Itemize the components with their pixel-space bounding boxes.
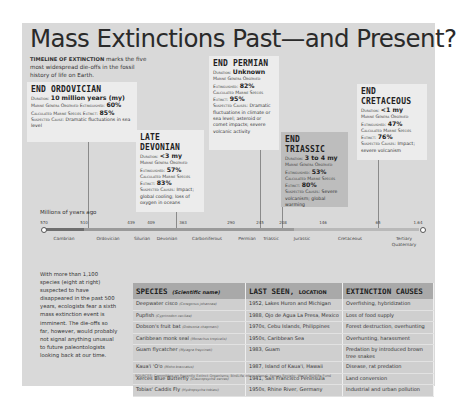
event-genera: 57% <box>167 166 182 173</box>
timeline-bar-light <box>294 228 419 231</box>
table-row: Kaua'i 'O'o (Moho braccatus) 1987, Islan… <box>133 362 434 374</box>
tick-label: 245 <box>256 220 264 225</box>
stem-ordovician <box>88 142 89 228</box>
event-genera: 53% <box>312 168 327 175</box>
event-duration: 10 million years (my) <box>51 94 125 101</box>
stem-cretaceous <box>378 160 379 228</box>
event-species: 80% <box>302 181 317 188</box>
table-row: Deepwater cisco (Coregonus johannae) 195… <box>133 299 434 310</box>
tick-label: 1.64 <box>414 220 423 225</box>
event-card-end-cretaceous: END CRETACEOUS Duration: <1 my Marine Ge… <box>357 84 427 160</box>
tick-label: 409 <box>147 220 155 225</box>
period-label: Ordovician <box>96 236 119 241</box>
period-label: Carboniferous <box>192 236 222 241</box>
period-label: Triassic <box>263 236 279 241</box>
event-duration: <3 my <box>160 152 182 159</box>
event-genera: 47% <box>388 120 403 127</box>
tick-label: 208 <box>279 220 287 225</box>
intro-text: TIMELINE OF EXTINCTION marks the five mo… <box>30 55 150 79</box>
table-row: Pupfish (Cyprinodon ceciliae) 1988, Ojo … <box>133 310 434 322</box>
event-duration: Unknown <box>233 68 265 75</box>
tick-label: 363 <box>179 220 187 225</box>
event-card-end-triassic: END TRIASSIC Duration: 3 to 4 my Marine … <box>281 132 348 207</box>
header-last-seen: LAST SEEN, LOCATION <box>246 283 343 299</box>
event-species: 85% <box>100 109 115 116</box>
timeline-end-dot <box>420 227 426 233</box>
period-label: Cretaceous <box>338 236 362 241</box>
period-label: Devonian <box>157 236 177 241</box>
period-label: Cambrian <box>54 236 75 241</box>
page-title: Mass Extinctions Past—and Present? <box>30 24 456 53</box>
tick-label: 510 <box>80 220 88 225</box>
event-card-end-ordovician: END ORDOVICIAN Duration: 10 million year… <box>27 82 137 142</box>
event-name: LATE DEVONIAN <box>140 133 200 153</box>
event-card-late-devonian: LATE DEVONIAN Duration: <3 my Marine Gen… <box>136 130 204 212</box>
event-duration: <1 my <box>381 106 403 113</box>
event-name: END TRIASSIC <box>285 135 344 155</box>
stem-permian <box>260 150 261 228</box>
intro-lead: TIMELINE OF EXTINCTION <box>30 56 104 62</box>
event-card-end-permian: END PERMIAN Duration: Unknown Marine Gen… <box>209 56 279 150</box>
timeline-bar-mid <box>84 228 294 231</box>
event-duration: 3 to 4 my <box>305 154 338 161</box>
period-label: Jurassic <box>294 236 310 241</box>
event-species: 76% <box>378 133 393 140</box>
table-row: Guam flycatcher (Myiagra freycineti) 198… <box>133 345 434 362</box>
tick-label: 439 <box>127 220 135 225</box>
tick-label: 290 <box>227 220 235 225</box>
timeline-axis-label: Millions of years ago <box>40 209 96 215</box>
table-row: Dobson's fruit bat (Dobsonia chapmani) 1… <box>133 322 434 334</box>
recent-extinctions-table: SPECIES (Scientific name) LAST SEEN, LOC… <box>133 283 434 397</box>
table-row: Caribbean monk seal (Monachus tropicalis… <box>133 333 434 345</box>
event-genera: 82% <box>240 82 255 89</box>
period-label: Permian <box>238 236 256 241</box>
sources-credit: SOURCES: Committee on Recently Extinct O… <box>135 374 331 378</box>
event-species: 83% <box>157 179 172 186</box>
period-label: Silurian <box>134 236 150 241</box>
tick-label: 570 <box>40 220 48 225</box>
period-label: Quaternary <box>392 242 416 247</box>
tick-label: 65 <box>375 220 380 225</box>
header-causes: EXTINCTION CAUSES <box>343 283 434 299</box>
sixth-extinction-text: With more than 1,100 species (eight at r… <box>40 270 118 359</box>
header-species: SPECIES (Scientific name) <box>133 283 246 299</box>
event-species: 95% <box>230 95 245 102</box>
period-label: Tertiary <box>396 236 412 241</box>
table-row: Tobias' Caddis Fly (Hydropsyche tobiasi)… <box>133 385 434 397</box>
timeline-bar-dark <box>44 228 84 231</box>
stem-devonian <box>176 212 177 228</box>
timeline-start-dot <box>41 227 47 233</box>
event-name: END CRETACEOUS <box>361 87 423 107</box>
event-genera: 60% <box>106 101 121 108</box>
tick-label: 146 <box>319 220 327 225</box>
